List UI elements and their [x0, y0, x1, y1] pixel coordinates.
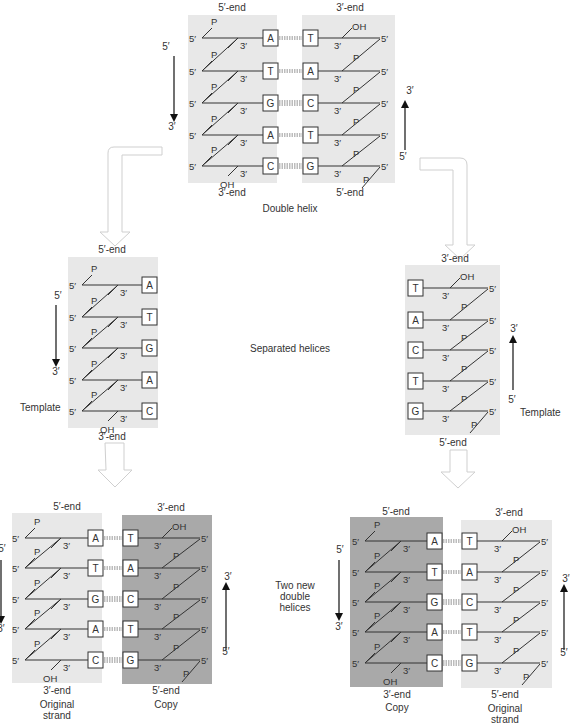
base-letter: C — [412, 345, 419, 356]
five-prime-label: 5′ — [69, 406, 76, 417]
three-prime-label: 3′ — [403, 665, 410, 676]
three-prime-label: 3′ — [120, 287, 127, 298]
five-prime-label: 5′ — [222, 646, 230, 657]
three-prime-label: 3′ — [240, 40, 247, 51]
five-prime-label: 5′ — [541, 597, 548, 608]
five-prime-label: 5′ — [162, 41, 170, 52]
end-label: 3′-end — [157, 502, 184, 513]
three-prime-label: 3′ — [442, 383, 449, 394]
phosphate-label: P — [374, 519, 380, 530]
five-prime-label: 5′ — [489, 406, 496, 417]
base-letter: T — [267, 66, 273, 77]
template-label: Template — [520, 407, 561, 418]
original-caption: strand — [491, 714, 519, 725]
base-letter: A — [127, 563, 134, 574]
base-letter: C — [431, 658, 438, 669]
hydroxyl-label: OH — [100, 424, 114, 435]
three-prime-label: 3′ — [510, 323, 518, 334]
three-prime-label: 3′ — [442, 413, 449, 424]
three-prime-label: 3′ — [494, 543, 501, 554]
five-prime-label: 5′ — [541, 567, 548, 578]
three-prime-label: 3′ — [168, 121, 176, 132]
base-letter: G — [127, 655, 135, 666]
phosphate-label: P — [471, 419, 477, 430]
end-label: 5′-end — [218, 2, 245, 13]
end-label: 5′-end — [152, 685, 179, 696]
five-prime-label: 5′ — [0, 543, 6, 554]
base-letter: T — [127, 624, 133, 635]
end-label: 5′-end — [53, 501, 80, 512]
base-letter: C — [466, 597, 473, 608]
base-letter: A — [92, 533, 99, 544]
phosphate-label: P — [211, 16, 217, 27]
double-helix-caption: Double helix — [262, 203, 317, 214]
phosphate-label: P — [363, 174, 369, 185]
three-prime-label: 3′ — [224, 571, 232, 582]
five-prime-label: 5′ — [69, 312, 76, 323]
three-prime-label: 3′ — [403, 634, 410, 645]
five-prime-label: 5′ — [201, 624, 208, 635]
three-prime-label: 3′ — [63, 540, 70, 551]
hydroxyl-label: OH — [460, 271, 474, 282]
three-prime-label: 3′ — [494, 574, 501, 585]
end-label: 5′-end — [382, 506, 409, 517]
original-caption: strand — [43, 710, 71, 721]
hydroxyl-label: OH — [383, 676, 397, 687]
end-label: 3′-end — [495, 507, 522, 518]
five-prime-label: 5′ — [69, 375, 76, 386]
base-letter: A — [267, 130, 274, 141]
base-letter: G — [412, 406, 420, 417]
hydroxyl-label: OH — [512, 524, 526, 535]
five-prime-label: 5′ — [69, 280, 76, 291]
five-prime-label: 5′ — [352, 658, 359, 669]
three-prime-label: 3′ — [335, 621, 343, 632]
base-letter: T — [466, 536, 472, 547]
five-prime-label: 5′ — [189, 98, 196, 109]
copy-caption: Copy — [385, 702, 408, 713]
five-prime-label: 5′ — [201, 655, 208, 666]
three-prime-label: 3′ — [442, 352, 449, 363]
phosphate-label: P — [523, 671, 529, 682]
base-letter: A — [307, 66, 314, 77]
three-prime-label: 3′ — [494, 604, 501, 615]
three-prime-label: 3′ — [63, 601, 70, 612]
phosphate-label: P — [353, 116, 359, 127]
base-letter: T — [431, 567, 437, 578]
end-label: 5′-end — [98, 244, 125, 255]
phosphate-label: P — [173, 642, 179, 653]
base-letter: T — [412, 376, 418, 387]
base-letter: A — [146, 280, 153, 291]
three-prime-label: 3′ — [154, 601, 161, 612]
phosphate-label: P — [173, 550, 179, 561]
three-prime-label: 3′ — [334, 168, 341, 179]
three-prime-label: 3′ — [154, 662, 161, 673]
base-letter: A — [92, 624, 99, 635]
copy-caption: Copy — [154, 699, 177, 710]
five-prime-label: 5′ — [12, 563, 19, 574]
phosphate-label: P — [461, 363, 467, 374]
five-prime-label: 5′ — [381, 130, 388, 141]
end-label: 3′-end — [383, 689, 410, 700]
original-caption: Original — [40, 699, 74, 710]
three-prime-label: 3′ — [63, 631, 70, 642]
three-prime-label: 3′ — [63, 570, 70, 581]
end-label: 5′-end — [439, 437, 466, 448]
phosphate-label: P — [513, 645, 519, 656]
phosphate-label: P — [513, 614, 519, 625]
three-prime-label: 3′ — [494, 634, 501, 645]
five-prime-label: 5′ — [201, 563, 208, 574]
separated-helices-panel: 5′-end 3′-end 3′-end 5′-end Separated he… — [20, 244, 561, 448]
base-letter: G — [92, 594, 100, 605]
end-label: 3′-end — [336, 2, 363, 13]
three-prime-label: 3′ — [406, 85, 414, 96]
three-prime-label: 3′ — [154, 570, 161, 581]
three-prime-label: 3′ — [52, 366, 60, 377]
base-letter: T — [146, 312, 152, 323]
two-new-caption: Two new — [275, 580, 315, 591]
phosphate-label: P — [353, 52, 359, 63]
base-letter: C — [127, 594, 134, 605]
three-prime-label: 3′ — [154, 540, 161, 551]
base-letter: A — [431, 536, 438, 547]
base-letter: G — [307, 161, 315, 172]
base-letter: G — [267, 98, 275, 109]
